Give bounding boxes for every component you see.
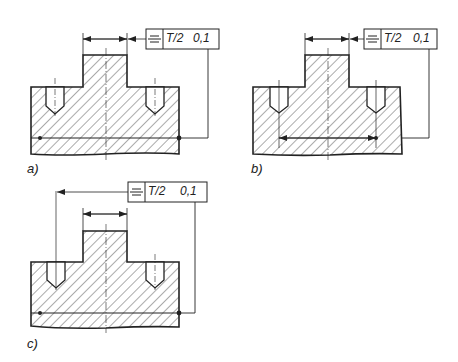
frame-a-tolerance-ref: T/2 (166, 31, 183, 45)
technical-drawing (0, 0, 458, 362)
panel-b-label: b) (251, 161, 263, 176)
frame-a-tolerance-value: 0,1 (193, 31, 210, 45)
panel-c-label: c) (27, 336, 38, 351)
frame-c-tolerance-value: 0,1 (180, 184, 197, 198)
frame-b-tolerance-ref: T/2 (384, 31, 401, 45)
panel-a (31, 29, 219, 160)
panel-b (253, 29, 437, 160)
panel-c (31, 182, 207, 333)
frame-c-tolerance-ref: T/2 (148, 184, 165, 198)
panel-a-label: a) (27, 161, 39, 176)
frame-b-tolerance-value: 0,1 (413, 31, 430, 45)
